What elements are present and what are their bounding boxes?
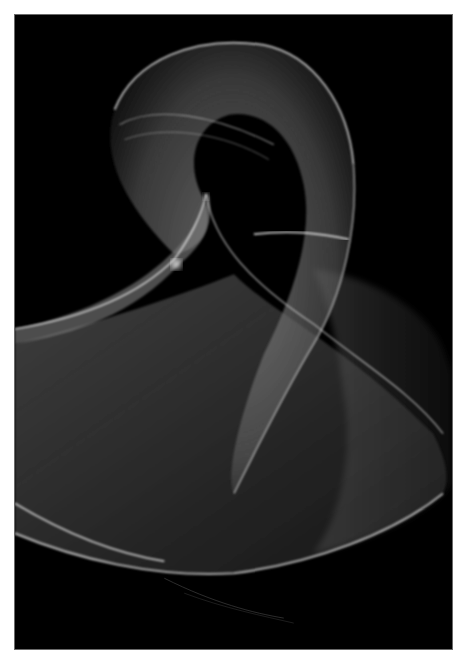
- photograph: [14, 14, 453, 650]
- light-sculpture-image: [15, 15, 452, 649]
